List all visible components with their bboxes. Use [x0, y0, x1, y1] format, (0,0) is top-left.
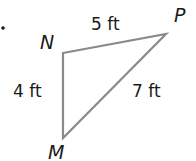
bullet-dot [1, 26, 5, 30]
side-label-np: 5 ft [91, 16, 120, 33]
vertex-label-p: P [174, 6, 185, 25]
vertex-label-m: M [48, 143, 64, 161]
side-label-mp: 7 ft [132, 83, 161, 100]
side-label-nm: 4 ft [13, 83, 42, 100]
vertex-label-n: N [40, 33, 54, 52]
